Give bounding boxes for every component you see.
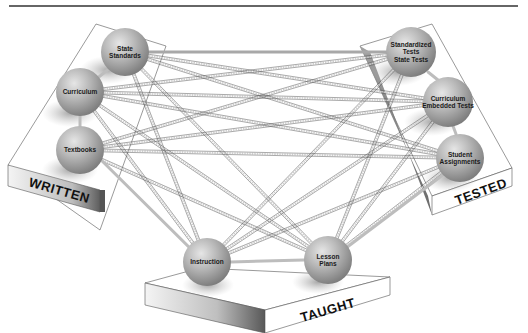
node-instruction: Instruction — [183, 238, 231, 286]
node-textbooks: Textbooks — [56, 126, 104, 174]
node-label: Lesson — [317, 253, 340, 260]
node-label: Curriculum — [63, 88, 98, 95]
node-label: State Tests — [394, 56, 429, 63]
node-label: Assignments — [440, 158, 481, 166]
node-label: Plans — [319, 260, 337, 267]
node-curriculum: Curriculum — [56, 68, 104, 116]
node-label: Student — [448, 151, 473, 158]
node-label: Embedded Tests — [422, 102, 474, 109]
node-label: Standards — [109, 52, 141, 59]
node-label: Standardized — [391, 41, 432, 48]
alignment-diagram: WRITTEN TESTED TAUGHT Stat — [0, 0, 528, 333]
plane-taught: TAUGHT — [145, 268, 390, 333]
node-state-standards: StateStandards — [101, 28, 149, 76]
node-lesson-plans: LessonPlans — [304, 236, 352, 284]
node-standardized-tests: StandardizedTestsState Tests — [386, 27, 436, 77]
node-label: Instruction — [190, 258, 224, 265]
node-label: State — [117, 45, 133, 52]
node-label: Curriculum — [431, 95, 466, 102]
node-label: Tests — [403, 48, 420, 55]
node-student-assignments: StudentAssignments — [436, 134, 484, 182]
node-label: Textbooks — [64, 146, 96, 153]
